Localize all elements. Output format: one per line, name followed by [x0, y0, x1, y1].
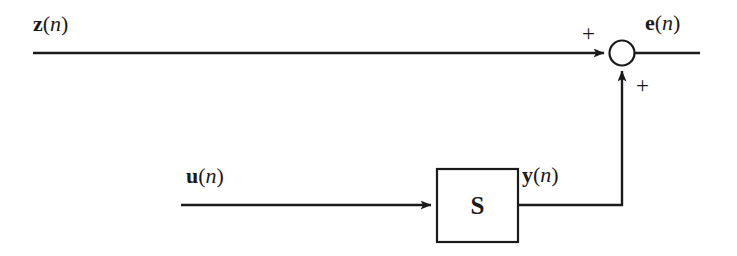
label-output-y: y(n)	[522, 164, 559, 186]
label-input-u-paren-close: )	[217, 163, 224, 188]
label-error-e: e(n)	[645, 12, 680, 34]
label-reference-z-vector: z	[33, 11, 43, 36]
label-input-u: u(n)	[186, 165, 224, 187]
label-input-u-index: n	[206, 163, 217, 188]
label-reference-z-index: n	[50, 11, 61, 36]
diagram-canvas	[0, 0, 737, 256]
label-output-y-paren-close: )	[551, 162, 558, 187]
block-diagram: z(n) e(n) u(n) y(n) + + S	[0, 0, 737, 256]
label-output-y-index: n	[540, 162, 551, 187]
summing-junction-circle	[610, 41, 635, 66]
label-output-y-vector: y	[522, 162, 533, 187]
block-s-label: S	[437, 169, 518, 242]
label-error-e-paren-close: )	[673, 10, 680, 35]
label-error-e-paren-open: (	[655, 10, 662, 35]
label-reference-z-paren-open: (	[43, 11, 50, 36]
label-reference-z-paren-close: )	[61, 11, 68, 36]
label-error-e-vector: e	[645, 10, 655, 35]
label-input-u-paren-open: (	[198, 163, 205, 188]
label-input-u-vector: u	[186, 163, 198, 188]
label-reference-z: z(n)	[33, 13, 68, 35]
label-error-e-index: n	[662, 10, 673, 35]
summing-sign-side: +	[636, 74, 649, 97]
summing-sign-top: +	[582, 22, 595, 45]
